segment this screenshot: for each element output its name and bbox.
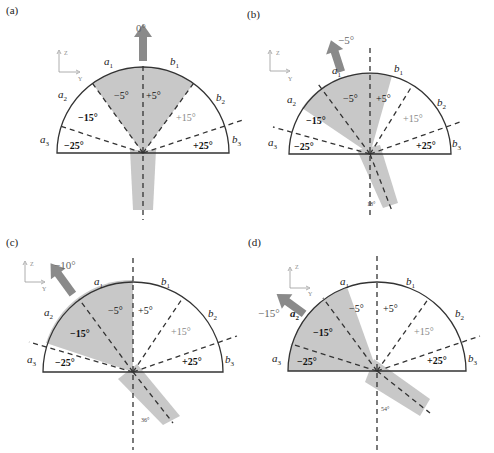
- panel-c: (c) Z Y −10° −5° +5° −15° +15° −25° +25°…: [6, 236, 237, 450]
- arrow-label: −15°: [258, 307, 280, 319]
- panel-d: (d) Z Y −15° −5° +5° −15° +15° −25° +25°…: [248, 236, 480, 450]
- rotation-angle-label: 18°: [367, 201, 376, 207]
- panel-label-c: (c): [6, 236, 19, 249]
- sector-label: −25°: [55, 357, 75, 368]
- sector-label: −25°: [294, 141, 314, 152]
- sector-label: −15°: [78, 112, 98, 123]
- y-axis-label: Y: [288, 76, 293, 82]
- panel-a: (a) Z Y 0° −5° +5° −15° +15°: [6, 4, 243, 220]
- svg-text:a3: a3: [40, 133, 50, 148]
- sector-label: −5°: [108, 305, 123, 316]
- axes-icon: [23, 261, 45, 284]
- sector-label: −15°: [313, 327, 333, 338]
- y-axis-label: Y: [308, 291, 313, 297]
- sector-label: −15°: [70, 328, 90, 339]
- sector-label: +25°: [416, 140, 436, 151]
- svg-text:a2: a2: [58, 88, 68, 103]
- sector-label: +25°: [182, 356, 202, 367]
- sector-label: −15°: [306, 115, 326, 126]
- arrow-label: 0°: [136, 22, 146, 34]
- svg-text:b3: b3: [452, 137, 462, 152]
- sector-label: −5°: [349, 303, 364, 314]
- sector-label: +25°: [193, 140, 213, 151]
- axes-icon: [57, 50, 80, 74]
- svg-text:b3: b3: [232, 133, 242, 148]
- svg-text:a3: a3: [27, 353, 37, 368]
- svg-text:a2: a2: [44, 306, 54, 321]
- svg-text:b3: b3: [225, 353, 235, 368]
- svg-text:a1: a1: [340, 275, 350, 290]
- z-axis-label: Z: [295, 264, 299, 270]
- sector-label: −25°: [297, 356, 317, 367]
- svg-text:b3: b3: [468, 352, 478, 367]
- arrow-label: −5°: [338, 34, 354, 46]
- svg-text:a1: a1: [104, 55, 114, 70]
- axes-icon: [288, 267, 310, 290]
- rotation-angle-label: 36°: [141, 417, 150, 423]
- arrow-label: −10°: [54, 259, 76, 271]
- sector-label: +5°: [376, 93, 391, 104]
- sector-label: +15°: [414, 326, 434, 337]
- svg-text:b2: b2: [216, 91, 226, 106]
- shaded-sector: [302, 73, 392, 154]
- panel-label-a: (a): [6, 4, 19, 17]
- panel-label-b: (b): [247, 8, 260, 21]
- sector-label: −25°: [64, 140, 84, 151]
- svg-text:b1: b1: [161, 275, 171, 290]
- sector-label: −5°: [114, 90, 129, 101]
- sector-label: −5°: [343, 93, 358, 104]
- sector-label: +25°: [427, 355, 447, 366]
- beam: [118, 364, 180, 425]
- svg-text:b1: b1: [170, 55, 180, 70]
- svg-text:b2: b2: [455, 307, 465, 322]
- svg-text:b2: b2: [437, 96, 447, 111]
- sector-label: +5°: [383, 303, 398, 314]
- svg-text:b1: b1: [394, 62, 404, 77]
- y-axis-label: Y: [42, 286, 47, 292]
- sector-label: +15°: [403, 113, 423, 124]
- svg-text:a3: a3: [272, 352, 282, 367]
- panel-b: (b) Z Y −5° −5° +5° −15° +15° −25° +25°: [247, 8, 463, 216]
- figure-canvas: (a) Z Y 0° −5° +5° −15° +15°: [0, 0, 494, 453]
- panel-label-d: (d): [248, 236, 261, 249]
- svg-text:a2: a2: [287, 93, 297, 108]
- svg-text:b2: b2: [208, 307, 218, 322]
- svg-text:a3: a3: [268, 136, 278, 151]
- z-axis-label: Z: [64, 50, 68, 56]
- z-axis-label: Z: [30, 261, 34, 267]
- rotation-angle-label: 54°: [381, 406, 390, 412]
- sector-label: +5°: [146, 90, 161, 101]
- y-axis-label: Y: [78, 76, 83, 82]
- z-axis-label: Z: [276, 50, 280, 56]
- sector-label: +15°: [171, 326, 191, 337]
- sector-label: +5°: [138, 305, 153, 316]
- sector-label: +15°: [176, 112, 196, 123]
